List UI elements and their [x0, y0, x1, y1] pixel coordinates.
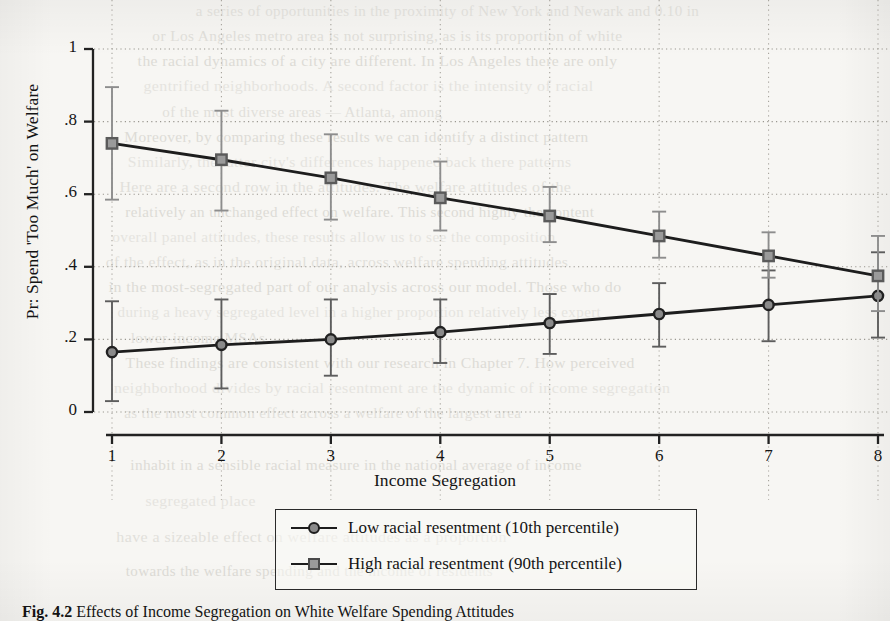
figure-caption: Fig. 4.2 Effects of Income Segregation o… — [22, 603, 882, 621]
y-tick-label: .8 — [37, 110, 77, 130]
figure-caption-body: Effects of Income Segregation on White W… — [72, 603, 514, 620]
x-tick-label: 6 — [639, 446, 679, 466]
x-axis-title: Income Segregation — [0, 470, 890, 491]
y-tick-label: 0 — [37, 400, 77, 420]
data-layer — [105, 87, 885, 401]
data-point-marker — [326, 173, 336, 183]
data-point-marker — [873, 271, 883, 281]
data-point-marker — [545, 318, 555, 328]
x-tick-label: 4 — [420, 446, 460, 466]
data-point-marker — [763, 251, 773, 261]
y-tick-label: .2 — [37, 327, 77, 347]
x-tick-label: 8 — [858, 446, 890, 466]
x-tick-label: 1 — [92, 446, 132, 466]
data-point-marker — [435, 327, 445, 337]
data-point-marker — [654, 231, 664, 241]
data-point-marker — [107, 347, 117, 357]
legend-label-high: High racial resentment (90th percentile) — [348, 554, 622, 574]
x-tick-label: 5 — [530, 446, 570, 466]
circle-marker-icon — [291, 521, 337, 535]
axes-layer — [84, 49, 884, 444]
data-point-marker — [435, 193, 445, 203]
x-tick-label: 2 — [201, 446, 241, 466]
data-point-marker — [763, 300, 773, 310]
data-point-marker — [654, 309, 664, 319]
data-point-marker — [545, 211, 555, 221]
legend-entry-low: Low racial resentment (10th percentile) — [276, 510, 696, 546]
x-tick-label: 3 — [311, 446, 351, 466]
data-point-marker — [216, 340, 226, 350]
square-marker-icon — [291, 557, 337, 571]
x-tick-label: 7 — [749, 446, 789, 466]
chart-plot-area — [0, 0, 890, 500]
y-tick-label: .6 — [37, 182, 77, 202]
figure-caption-label: Fig. 4.2 — [22, 603, 72, 620]
data-point-marker — [107, 138, 117, 148]
y-tick-label: .4 — [37, 255, 77, 275]
data-point-marker — [216, 155, 226, 165]
chart-legend: Low racial resentment (10th percentile) … — [275, 509, 697, 590]
data-point-marker — [326, 334, 336, 344]
series-high — [105, 87, 885, 311]
legend-entry-high: High racial resentment (90th percentile) — [276, 546, 696, 582]
legend-label-low: Low racial resentment (10th percentile) — [348, 518, 619, 538]
y-tick-label: 1 — [37, 37, 77, 57]
